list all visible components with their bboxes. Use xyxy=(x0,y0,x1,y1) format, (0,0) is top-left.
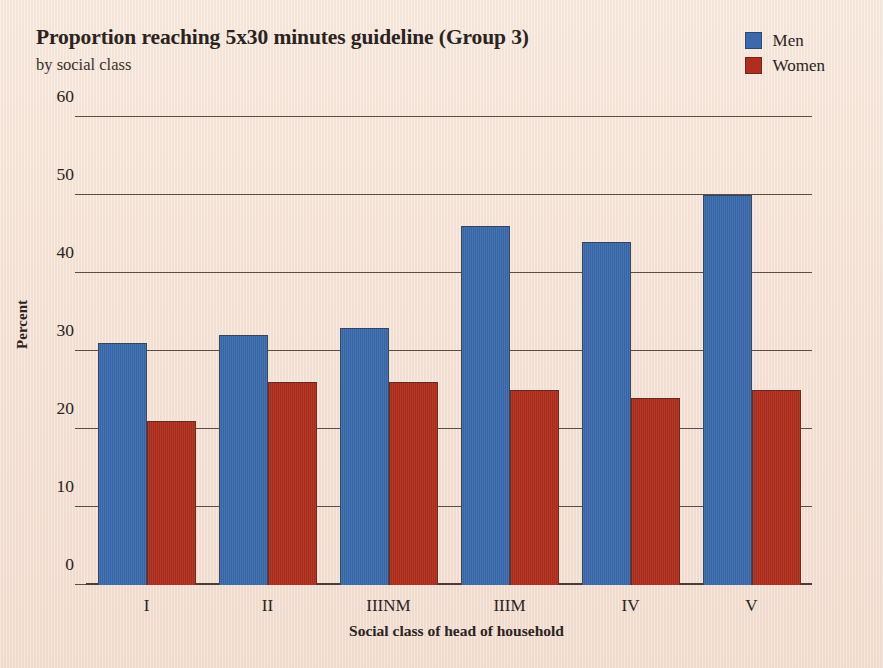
y-tick-mark-30 xyxy=(75,350,86,351)
chart-legend: Men Women xyxy=(745,32,825,74)
bar-women-IIIM xyxy=(510,390,559,585)
chart-figure: Proportion reaching 5x30 minutes guideli… xyxy=(0,0,883,668)
x-tick-label-IIINM: IIINM xyxy=(328,596,449,616)
bar-men-IV xyxy=(582,242,631,585)
chart-header: Proportion reaching 5x30 minutes guideli… xyxy=(36,24,656,76)
bars-layer: IIIIIINMIIIMIVV xyxy=(86,117,812,585)
x-axis-title: Social class of head of household xyxy=(72,622,841,640)
chart-title: Proportion reaching 5x30 minutes guideli… xyxy=(36,24,656,50)
x-tick-label-IV: IV xyxy=(570,596,691,616)
x-tick-label-II: II xyxy=(207,596,328,616)
bar-group-IIIM: IIIM xyxy=(449,117,570,585)
bar-group-IIINM: IIINM xyxy=(328,117,449,585)
bar-women-V xyxy=(752,390,801,585)
bar-group-II: II xyxy=(207,117,328,585)
bar-women-IV xyxy=(631,398,680,585)
bar-men-IIIM xyxy=(461,226,510,585)
legend-entry-men: Men xyxy=(745,32,825,49)
y-tick-mark-40 xyxy=(75,272,86,273)
bar-women-IIINM xyxy=(389,382,438,585)
y-tick-label-60: 60 xyxy=(57,86,75,107)
y-tick-mark-10 xyxy=(75,506,86,507)
bar-men-V xyxy=(703,195,752,585)
y-tick-label-20: 20 xyxy=(57,398,75,419)
bar-men-II xyxy=(219,335,268,585)
x-tick-label-I: I xyxy=(86,596,207,616)
plot-area: 0102030405060 IIIIIINMIIIMIVV xyxy=(86,117,812,585)
y-tick-label-0: 0 xyxy=(65,554,74,575)
x-tick-label-IIIM: IIIM xyxy=(449,596,570,616)
y-tick-label-30: 30 xyxy=(57,320,75,341)
y-axis-title: Percent xyxy=(14,300,38,349)
bar-men-I xyxy=(98,343,147,585)
x-tick-label-V: V xyxy=(691,596,812,616)
bar-group-I: I xyxy=(86,117,207,585)
bar-men-IIINM xyxy=(340,328,389,585)
legend-label-men: Men xyxy=(773,32,804,49)
bar-women-I xyxy=(147,421,196,585)
bar-women-II xyxy=(268,382,317,585)
chart-subtitle: by social class xyxy=(36,54,656,76)
y-tick-mark-50 xyxy=(75,194,86,195)
y-tick-mark-60 xyxy=(75,116,86,117)
y-tick-mark-0 xyxy=(75,584,86,585)
legend-entry-women: Women xyxy=(745,57,825,74)
bar-group-IV: IV xyxy=(570,117,691,585)
legend-swatch-men xyxy=(745,32,762,49)
y-tick-label-50: 50 xyxy=(57,164,75,185)
bar-group-V: V xyxy=(691,117,812,585)
legend-swatch-women xyxy=(745,57,762,74)
legend-label-women: Women xyxy=(773,57,825,74)
y-tick-label-10: 10 xyxy=(57,476,75,497)
y-tick-mark-20 xyxy=(75,428,86,429)
y-tick-label-40: 40 xyxy=(57,242,75,263)
